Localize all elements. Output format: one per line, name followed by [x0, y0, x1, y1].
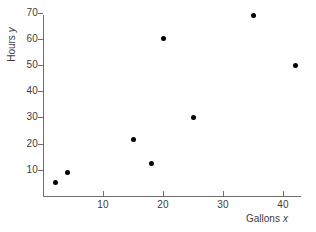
data-point	[65, 170, 70, 175]
data-point	[131, 137, 136, 142]
x-tick	[103, 191, 104, 196]
y-axis-line	[43, 15, 44, 197]
y-tick	[38, 65, 43, 66]
x-tick-label: 40	[263, 199, 303, 210]
y-tick	[38, 170, 43, 171]
data-point	[191, 115, 196, 120]
y-tick	[38, 91, 43, 92]
y-tick-label: 40	[0, 85, 38, 96]
y-axis-title-text: Hours	[6, 35, 17, 62]
y-tick	[38, 13, 43, 14]
x-axis-title: Gallonsx	[246, 213, 288, 224]
x-axis-title-text: Gallons	[246, 213, 280, 224]
y-tick-label: 10	[0, 164, 38, 175]
x-axis-title-variable: x	[280, 213, 288, 224]
x-tick	[223, 191, 224, 196]
y-tick	[38, 144, 43, 145]
x-axis-line	[43, 196, 301, 197]
x-tick-label: 30	[203, 199, 243, 210]
y-tick-label: 70	[0, 7, 38, 18]
y-axis-title: Hoursy	[6, 18, 17, 72]
x-tick	[283, 191, 284, 196]
x-tick	[163, 191, 164, 196]
y-tick	[38, 117, 43, 118]
data-point	[161, 36, 166, 41]
y-tick-label: 20	[0, 138, 38, 149]
y-tick-label: 30	[0, 111, 38, 122]
data-point	[293, 63, 298, 68]
y-axis-title-variable: y	[6, 27, 17, 35]
data-point	[251, 13, 256, 18]
x-tick-label: 20	[143, 199, 183, 210]
x-tick-label: 10	[83, 199, 123, 210]
scatter-plot-figure: 10203040506070 10203040 Gallonsx Hoursy	[0, 0, 316, 232]
data-point	[53, 180, 58, 185]
y-tick	[38, 39, 43, 40]
data-point	[149, 161, 154, 166]
